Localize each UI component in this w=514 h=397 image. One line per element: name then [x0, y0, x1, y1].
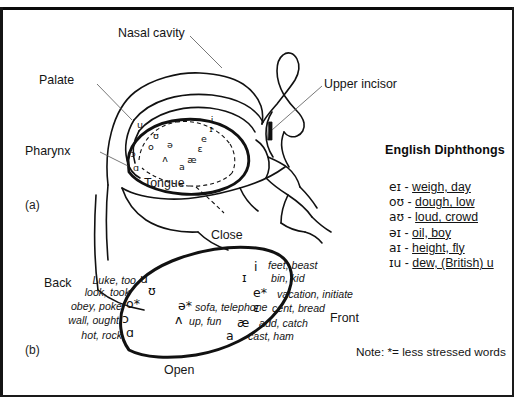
diphthong-row: əɪ - oil, boy [389, 226, 494, 241]
tongue-symbol-scripta: ɑ [133, 162, 139, 173]
vowel-word-front: cent, bread [272, 302, 325, 314]
axis-label-front: Front [330, 311, 359, 325]
vowel-word-front: bin, kid [271, 272, 305, 284]
vowel-symbol-back: ɔ [122, 311, 129, 326]
leader-upper-incisor [272, 86, 322, 130]
label-palate: Palate [39, 73, 74, 87]
tongue-symbol-u: u [137, 119, 143, 130]
legend-note: Note: *= less stressed words [356, 345, 506, 359]
tongue-symbol-wedge: ʌ [162, 153, 168, 164]
diphthong-dash: - [405, 180, 409, 194]
label-tongue: Tongue [144, 176, 185, 190]
diphthong-words: height, fly [412, 241, 465, 255]
diphthong-dash: - [408, 210, 412, 224]
tongue-symbol-o: o [148, 141, 154, 152]
leader-nasal-cavity [190, 36, 222, 68]
diphthong-row: eɪ - weigh, day [389, 180, 494, 195]
diphthong-row: aɪ - height, fly [389, 241, 494, 256]
diphthong-dash: - [405, 226, 409, 240]
vowel-symbol-front: æ [237, 315, 249, 330]
vowel-symbol-back: u [140, 271, 148, 286]
diphthongs-title: English Diphthongs [385, 143, 505, 157]
vowel-symbol-back: ʊ [148, 283, 156, 298]
diphthong-dash: - [405, 241, 409, 255]
diphthong-symbol: eɪ [389, 180, 401, 194]
vowel-symbol-front: a [226, 328, 234, 343]
vowel-word-back: obey, poke [71, 300, 122, 312]
diphthong-words: dough, low [415, 195, 474, 209]
vowel-symbol-back: ɑ [126, 325, 134, 340]
tongue-symbol-a: a [179, 161, 185, 172]
diphthong-symbol: əɪ [389, 226, 401, 240]
diphthong-symbol: oʊ [389, 195, 404, 209]
figure-canvas: u ʊ o ə ʌ ɔ ɑ a æ ɛ e ɪ i Nasal cavity P… [0, 0, 514, 397]
vowel-symbol-central: ə* [178, 298, 192, 313]
vowel-symbol-back: o* [126, 296, 140, 311]
tongue-symbol-e: e [201, 133, 207, 144]
diphthong-row: ɪu - dew, (British) u [389, 256, 494, 271]
diphthong-words: weigh, day [412, 180, 471, 194]
tongue-symbol-i: i [211, 114, 214, 125]
vowel-word-central: up, fun [189, 315, 221, 327]
label-upper-incisor: Upper incisor [324, 77, 397, 91]
vowel-word-front: add, catch [259, 317, 308, 329]
vowel-word-back: Luke, too [92, 274, 136, 286]
diphthong-words: loud, crowd [415, 210, 478, 224]
vowel-symbol-front: e* [253, 285, 267, 300]
diphthong-symbol: aʊ [389, 210, 404, 224]
vowel-symbol-front: ɛ [253, 300, 260, 315]
tongue-symbol-ash: æ [187, 154, 196, 165]
vowel-word-front: vacation, initiate [277, 288, 353, 300]
panel-label-a: (a) [25, 198, 40, 212]
vowel-word-front: feet, beast [268, 259, 317, 271]
panel-label-b: (b) [25, 343, 40, 357]
tongue-symbol-openo: ɔ [130, 148, 135, 159]
vowel-symbol-central: ʌ [175, 312, 182, 327]
vowel-word-front: cast, ham [248, 330, 294, 342]
tongue-symbol-upsilon: ʊ [153, 130, 159, 141]
diphthong-dash: - [405, 256, 409, 270]
axis-label-back: Back [44, 276, 72, 290]
tongue-symbol-epsilon: ɛ [197, 143, 202, 154]
vowel-symbol-front: ɪ [242, 270, 247, 285]
diphthong-row: oʊ - dough, low [389, 195, 494, 210]
diphthong-dash: - [408, 195, 412, 209]
leader-pharynx [100, 152, 128, 166]
diphthong-row: aʊ - loud, crowd [389, 210, 494, 225]
diphthong-words: oil, boy [412, 226, 451, 240]
vowel-word-back: look, took [85, 286, 130, 298]
diphthongs-list: eɪ - weigh, day oʊ - dough, low aʊ - lou… [389, 180, 494, 271]
diphthong-symbol: ɪu [389, 256, 401, 270]
tongue-symbol-schwa: ə [167, 139, 173, 150]
label-pharynx: Pharynx [25, 144, 70, 158]
diphthong-symbol: aɪ [389, 241, 401, 255]
axis-label-close: Close [211, 228, 243, 242]
leader-palate [97, 84, 132, 120]
diphthong-words: dew, (British) u [412, 256, 493, 270]
vowel-symbol-front: i [254, 259, 257, 274]
vowel-word-back: wall, ought [68, 314, 119, 326]
label-nasal-cavity: Nasal cavity [118, 26, 185, 40]
axis-label-open: Open [164, 363, 194, 377]
vowel-word-back: hot, rock [81, 329, 122, 341]
